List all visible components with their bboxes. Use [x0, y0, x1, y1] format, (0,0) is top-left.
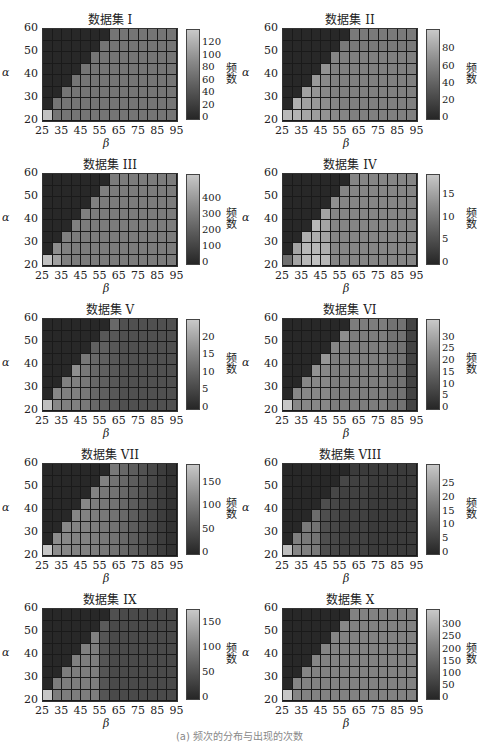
heatmap-cell [388, 331, 398, 343]
y-tick-label: 50 [14, 190, 38, 201]
heatmap-cell [91, 354, 101, 366]
heatmap-cell [43, 365, 53, 377]
heatmap-cell [53, 52, 63, 64]
heatmap-cell [302, 243, 312, 255]
heatmap-cell [110, 232, 120, 244]
y-tick-label: 60 [254, 22, 278, 33]
heatmap-cell [379, 388, 389, 400]
heatmap-cell [360, 377, 370, 389]
heatmap-cell [360, 29, 370, 41]
heatmap-cell [350, 75, 360, 87]
heatmap-cell [360, 197, 370, 209]
heatmap-cell [129, 331, 139, 343]
heatmap-cell [331, 487, 341, 499]
heatmap-cell [167, 331, 177, 343]
heatmap-cell [360, 533, 370, 545]
heatmap-cell [388, 110, 398, 122]
heatmap-cell [407, 476, 417, 488]
heatmap-cell [369, 464, 379, 476]
heatmap-cell [139, 388, 149, 400]
heatmap-cell [360, 174, 370, 186]
x-tick-label: 45 [70, 414, 90, 427]
heatmap-cell [110, 621, 120, 633]
heatmap-cell [312, 632, 322, 644]
panel-title: 数据集 III [40, 155, 180, 172]
heatmap-cell [53, 186, 63, 198]
x-tick-label: 55 [330, 414, 350, 427]
heatmap-cell [360, 476, 370, 488]
heatmap-cell [91, 499, 101, 511]
y-tick-label: 30 [254, 381, 278, 392]
heatmap-cell [43, 209, 53, 221]
heatmap-cell [129, 522, 139, 534]
heatmap-cell [388, 255, 398, 267]
y-tick-label: 40 [14, 213, 38, 224]
y-axis-label: α [2, 356, 9, 369]
x-tick-label: 35 [291, 704, 311, 717]
heatmap-cell [167, 400, 177, 412]
heatmap-panel: 数据集 III6050403020α2535455565758595β40030… [0, 145, 239, 290]
heatmap-cell [100, 342, 110, 354]
heatmap-cell [283, 319, 293, 331]
heatmap-cell [283, 545, 293, 557]
heatmap-cell [120, 400, 130, 412]
colorbar-tick-label: 40 [202, 87, 215, 97]
heatmap-cell [62, 522, 72, 534]
heatmap-cell [43, 377, 53, 389]
heatmap-cell [91, 522, 101, 534]
heatmap-cell [129, 690, 139, 702]
heatmap-cell [360, 545, 370, 557]
heatmap-cell [321, 655, 331, 667]
x-tick-label: 65 [349, 269, 369, 282]
y-tick-label: 40 [14, 358, 38, 369]
heatmap-cell [62, 52, 72, 64]
heatmap-cell [331, 342, 341, 354]
heatmap-cell [388, 41, 398, 53]
heatmap-cell [53, 400, 63, 412]
heatmap-cell [302, 64, 312, 76]
heatmap-cell [120, 632, 130, 644]
heatmap-cell [72, 319, 82, 331]
heatmap-cell [72, 545, 82, 557]
heatmap-cell [331, 464, 341, 476]
heatmap-cell [360, 644, 370, 656]
heatmap-cell [100, 533, 110, 545]
heatmap-cell [321, 609, 331, 621]
heatmap-cell [91, 655, 101, 667]
colorbar-tick-label: 30 [442, 332, 455, 342]
heatmap-cell [283, 533, 293, 545]
heatmap-cell [407, 621, 417, 633]
heatmap-cell [148, 87, 158, 99]
heatmap-cell [350, 632, 360, 644]
heatmap-cell [379, 545, 389, 557]
heatmap-cell [167, 487, 177, 499]
heatmap-cell [369, 545, 379, 557]
heatmap-cell [369, 522, 379, 534]
heatmap-cell [72, 609, 82, 621]
heatmap-cell [72, 87, 82, 99]
heatmap-cell [321, 377, 331, 389]
heatmap-cell [148, 499, 158, 511]
heatmap-cell [129, 197, 139, 209]
heatmap-panel: 数据集 I6050403020α2535455565758595β1201008… [0, 0, 239, 145]
heatmap-cell [350, 644, 360, 656]
heatmap-cell [312, 220, 322, 232]
heatmap-cell [321, 388, 331, 400]
colorbar-tick-label: 50 [442, 680, 455, 690]
heatmap-cell [72, 232, 82, 244]
heatmap-grid [282, 173, 418, 267]
heatmap-cell [293, 64, 303, 76]
heatmap-cell [293, 609, 303, 621]
heatmap-cell [62, 632, 72, 644]
heatmap-cell [369, 220, 379, 232]
y-tick-label: 60 [254, 457, 278, 468]
heatmap-cell [283, 52, 293, 64]
colorbar-label: 频数 [222, 62, 238, 84]
heatmap-cell [407, 464, 417, 476]
heatmap-cell [312, 209, 322, 221]
heatmap-cell [81, 522, 91, 534]
colorbar-tick-label: 25 [442, 343, 455, 353]
heatmap-cell [53, 365, 63, 377]
heatmap-cell [148, 632, 158, 644]
heatmap-cell [100, 232, 110, 244]
